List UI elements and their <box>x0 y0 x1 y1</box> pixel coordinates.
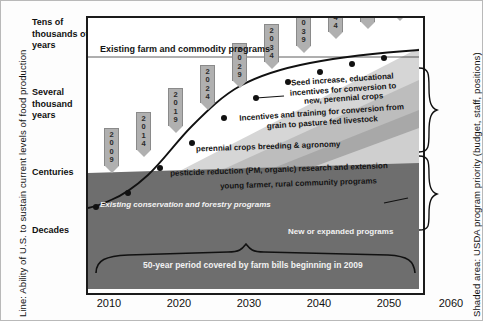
y-axis-caption: Line: Ability of U.S. to sustain current… <box>17 50 28 317</box>
year-marker-2034-tip <box>265 62 279 69</box>
right-axis-caption: Shaded area: USDA program priority (budg… <box>471 52 482 317</box>
year-marker-2019-tip <box>169 126 183 133</box>
y-tick-several-thousand: Several thousand years <box>32 87 90 122</box>
year-marker-2054-tip <box>393 16 407 21</box>
year-marker-2049-tip <box>361 22 375 29</box>
x-tick-2040: 2040 <box>297 297 341 309</box>
label-existing-conservation: Existing conservation and forestry progr… <box>100 200 271 210</box>
right-braces <box>417 16 439 246</box>
label-new-expanded: New or expanded programs <box>288 227 393 237</box>
plot-area: 2 0 0 9 2 0 1 4 2 0 1 9 2 0 2 4 2 0 2 9 … <box>86 16 425 295</box>
label-existing-farm-programs: Existing farm and commodity programs <box>100 45 270 55</box>
year-marker-2024-label: 2 0 2 4 <box>200 65 215 103</box>
year-marker-2009-tip <box>105 166 119 173</box>
x-tick-2020: 2020 <box>157 297 201 309</box>
year-marker-2009[interactable]: 2 0 0 9 <box>104 128 119 173</box>
x-tick-2030: 2030 <box>227 297 271 309</box>
year-marker-2019-label: 2 0 1 9 <box>168 88 183 126</box>
year-marker-2039[interactable]: 2 0 3 9 <box>296 16 311 53</box>
x-tick-2060: 2060 <box>429 297 473 309</box>
year-marker-2014-label: 2 0 1 4 <box>136 112 151 150</box>
leader-seed-increase <box>256 96 284 98</box>
leader-new-expanded <box>384 198 408 203</box>
brace-lower <box>419 156 437 230</box>
year-marker-2054[interactable]: 2 0 5 4 <box>392 16 407 21</box>
year-marker-2009-label: 2 0 0 9 <box>104 128 119 166</box>
year-marker-2039-tip <box>297 46 311 53</box>
year-marker-2044-tip <box>329 32 343 39</box>
brace-upper <box>419 68 437 152</box>
year-marker-2014-tip <box>137 150 151 157</box>
infographic-root: Line: Ability of U.S. to sustain current… <box>0 0 483 321</box>
year-marker-2029-tip <box>233 81 247 88</box>
year-marker-2024-tip <box>201 103 215 110</box>
y-tick-tens-of-thousands: Tens of thousands of years <box>32 17 90 52</box>
y-tick-centuries: Centuries <box>32 167 90 179</box>
y-tick-decades: Decades <box>32 225 90 237</box>
x-tick-2010: 2010 <box>87 297 131 309</box>
year-marker-2024[interactable]: 2 0 2 4 <box>200 65 215 110</box>
label-fifty-year-period: 50-year period covered by farm bills beg… <box>143 261 363 271</box>
year-marker-2019[interactable]: 2 0 1 9 <box>168 88 183 133</box>
year-marker-2044-label: 2 0 4 4 <box>328 16 343 32</box>
year-marker-2039-label: 2 0 3 9 <box>296 16 311 46</box>
x-tick-2050: 2050 <box>367 297 411 309</box>
year-marker-2014[interactable]: 2 0 1 4 <box>136 112 151 157</box>
year-marker-2049[interactable]: 2 0 4 9 <box>360 16 375 29</box>
year-marker-2044[interactable]: 2 0 4 4 <box>328 16 343 39</box>
year-marker-2034-label: 2 0 3 4 <box>264 24 279 62</box>
